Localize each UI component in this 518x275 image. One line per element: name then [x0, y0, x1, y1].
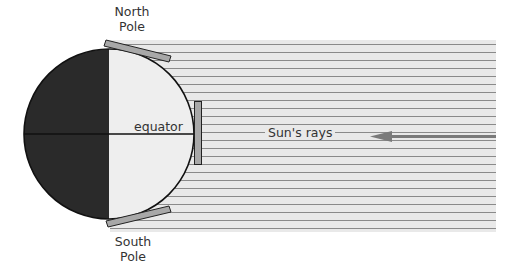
south-pole-label-line1: South	[103, 234, 163, 249]
north-pole-label-line1: North	[102, 4, 162, 19]
sun-rays-label: Sun's rays	[265, 125, 335, 140]
north-pole-label: North Pole	[102, 4, 162, 34]
south-pole-label: South Pole	[103, 234, 163, 264]
equator-panel	[195, 102, 202, 165]
diagram-canvas	[0, 0, 518, 275]
south-pole-label-line2: Pole	[103, 249, 163, 264]
north-pole-label-line2: Pole	[102, 19, 162, 34]
earth-globe	[24, 49, 194, 219]
sun-earth-diagram: North Pole South Pole equator Sun's rays	[0, 0, 518, 275]
equator-label: equator	[134, 119, 183, 134]
